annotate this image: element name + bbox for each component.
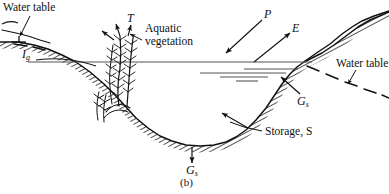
precipitation-symbol: P: [264, 7, 271, 21]
water-table-right-label: Water table: [336, 57, 388, 69]
figure-stream-water-balance: Water table Ig T Aquatic vegetation P E …: [0, 0, 389, 194]
figure-caption: (b): [180, 177, 193, 189]
evaporation-symbol: E: [292, 21, 299, 35]
water-table-left-squiggle: [2, 22, 18, 24]
evaporation-arrow: [254, 33, 290, 62]
channel-bed-profile: [0, 12, 389, 146]
ground-seepage-bottom-subscript: s: [195, 169, 198, 178]
ground-seepage-right-label: Gs: [297, 95, 309, 110]
ground-seepage-right-symbol: G: [297, 94, 306, 108]
precipitation-label: P: [264, 8, 271, 21]
aquatic-vegetation-leader: [130, 34, 142, 40]
transpiration-label: T: [127, 12, 134, 25]
transpiration-symbol: T: [127, 11, 134, 25]
water-table-left-tick: [12, 36, 26, 42]
water-table-right-line: [307, 66, 389, 98]
inflow-ground-label: Ig: [22, 48, 30, 63]
evaporation-label: E: [292, 22, 299, 35]
water-table-left-label: Water table: [3, 1, 55, 13]
inflow-ground-subscript: g: [26, 53, 30, 62]
storage-label: Storage, S: [265, 125, 312, 137]
ground-seepage-bottom-symbol: G: [186, 163, 195, 177]
precipitation-arrow: [226, 20, 262, 53]
left-land-surface: [2, 30, 50, 43]
aquatic-vegetation-line-2: vegetation: [145, 35, 193, 48]
ground-seepage-right-subscript: s: [306, 100, 309, 109]
aquatic-vegetation-line-1: Aquatic: [145, 22, 193, 35]
storage-arrow: [222, 113, 248, 128]
aquatic-vegetation-label: Aquatic vegetation: [145, 22, 193, 48]
water-table-left-leader: [20, 16, 30, 36]
water-table-right-leader: [348, 70, 356, 84]
